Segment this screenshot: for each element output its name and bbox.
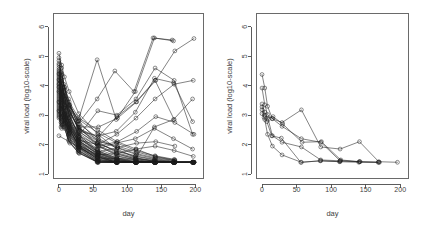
x-axis-tick-label: 100 [121, 186, 133, 193]
viral-load-figure: 050100150200123456dayviral load (log10-s… [0, 0, 427, 235]
x-axis-tick-label: 200 [189, 186, 201, 193]
y-axis-title: viral load (log10-scale) [225, 58, 234, 134]
y-axis-tick-label: 5 [242, 54, 249, 58]
y-axis-tick-label: 4 [39, 84, 46, 88]
x-axis-tick-label: 0 [57, 186, 61, 193]
y-axis-tick-label: 5 [39, 54, 46, 58]
y-axis-tick-label: 2 [39, 143, 46, 147]
x-axis-tick-label: 0 [260, 186, 264, 193]
y-axis-tick-label: 6 [39, 25, 46, 29]
x-axis-title: day [122, 209, 134, 218]
x-axis-tick-label: 50 [293, 186, 301, 193]
y-axis-title: viral load (log10-scale) [22, 58, 31, 134]
y-axis-tick-label: 4 [242, 84, 249, 88]
figure-canvas: 050100150200123456dayviral load (log10-s… [0, 0, 427, 235]
x-axis-title: day [326, 209, 338, 218]
x-axis-tick-label: 150 [360, 186, 372, 193]
y-axis-tick-label: 6 [242, 25, 249, 29]
y-axis-tick-label: 1 [242, 172, 249, 176]
x-axis-tick-label: 150 [155, 186, 167, 193]
y-axis-tick-label: 1 [39, 172, 46, 176]
x-axis-tick-label: 50 [89, 186, 97, 193]
x-axis-tick-label: 200 [394, 186, 406, 193]
y-axis-tick-label: 2 [242, 143, 249, 147]
x-axis-tick-label: 100 [325, 186, 337, 193]
y-axis-tick-label: 3 [242, 113, 249, 117]
y-axis-tick-label: 3 [39, 113, 46, 117]
